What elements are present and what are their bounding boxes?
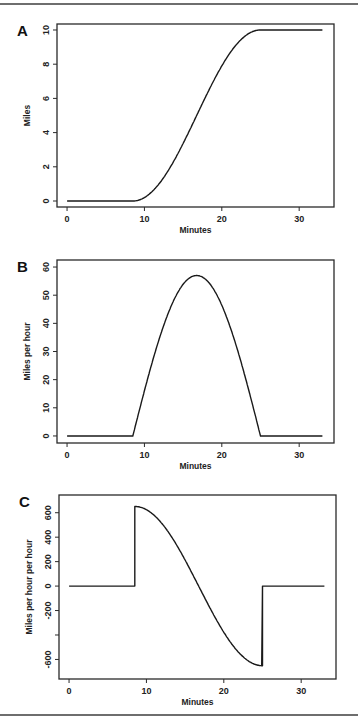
panel-label: B [17,258,28,275]
y-tick-label: 200 [43,554,53,569]
y-tick-label: 50 [41,290,51,300]
plot-frame [59,495,336,679]
y-tick-label: 4 [41,130,51,135]
x-tick-label: 10 [139,214,149,224]
y-tick-label: 0 [41,433,51,438]
x-tick-label: 0 [65,450,70,460]
y-tick-label: 10 [41,25,51,35]
x-axis-label: Minutes [179,461,211,471]
x-tick-label: 20 [219,686,229,696]
panel-label: A [17,22,28,39]
x-tick-label: 10 [141,686,151,696]
velocity-line [67,276,322,437]
y-tick-label: -600 [43,650,53,668]
y-tick-label: -200 [43,602,53,620]
panel-c: C0102030Minutes-600-2000200400600Miles p… [19,493,336,707]
plot-frame [57,260,334,443]
y-tick-label: 40 [41,318,51,328]
y-tick-label: 60 [41,262,51,272]
y-tick-label: 2 [41,164,51,169]
y-tick-label: 10 [41,403,51,413]
panel-a: A0102030Minutes0246810Miles [17,22,334,235]
panel-label: C [19,493,30,510]
panel-b: B0102030Minutes0102030405060Miles per ho… [17,258,334,471]
y-tick-label: 30 [41,346,51,356]
y-axis-label: Miles per hour per hour [24,539,34,635]
x-tick-label: 0 [67,686,72,696]
x-tick-label: 20 [217,450,227,460]
y-tick-label: 0 [43,584,53,589]
plot-frame [57,24,334,207]
distance-line [67,30,322,201]
y-tick-label: 600 [43,505,53,520]
y-axis-label: Miles per hour [22,322,32,381]
figure: A0102030Minutes0246810MilesB0102030Minut… [0,0,358,726]
x-tick-label: 30 [294,450,304,460]
acceleration-line [69,507,324,666]
y-tick-label: 0 [41,199,51,204]
x-tick-label: 30 [296,686,306,696]
x-tick-label: 0 [65,214,70,224]
x-tick-label: 10 [139,450,149,460]
x-tick-label: 20 [217,214,227,224]
x-axis-label: Minutes [179,225,211,235]
y-axis-label: Miles [22,105,32,127]
x-tick-label: 30 [294,214,304,224]
y-tick-label: 400 [43,530,53,545]
y-tick-label: 8 [41,62,51,67]
y-tick-label: 6 [41,96,51,101]
y-tick-label: 20 [41,375,51,385]
x-axis-label: Minutes [181,697,213,707]
